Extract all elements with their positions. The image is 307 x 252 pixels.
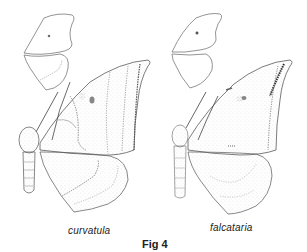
curvatula-hindwing bbox=[40, 152, 128, 212]
falcataria-hindwing bbox=[188, 152, 272, 214]
falcataria-forewing bbox=[188, 60, 292, 155]
curvatula-forewing bbox=[40, 60, 150, 155]
curvatula-outline-inset bbox=[24, 14, 74, 90]
specimen-falcataria bbox=[172, 14, 292, 215]
moth-comparison-figure: curvatula falcataria Fig 4 bbox=[0, 0, 307, 252]
caption-curvatula: curvatula bbox=[68, 225, 110, 236]
falcataria-outline-inset bbox=[172, 14, 222, 89]
specimen-curvatula bbox=[19, 14, 150, 212]
illustration bbox=[0, 0, 307, 252]
figure-label: Fig 4 bbox=[142, 238, 168, 250]
caption-falcataria: falcataria bbox=[210, 222, 253, 233]
